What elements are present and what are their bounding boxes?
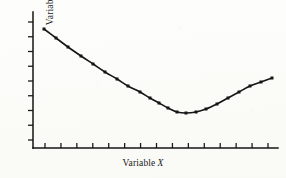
data-point-markers [43,28,274,115]
data-point-marker [185,112,188,115]
data-point-marker [67,46,70,49]
y-axis-label-word: Variable [45,0,55,25]
data-point-marker [116,78,119,81]
data-point-marker [139,91,142,94]
plot-area [0,0,286,178]
data-point-marker [167,107,170,110]
data-point-marker [80,55,83,58]
x-axis-label-word: Variable [123,158,156,168]
data-point-marker [127,85,130,88]
x-axis-label: VariableX [0,158,286,168]
data-point-marker [271,77,274,80]
data-point-marker [249,85,252,88]
data-point-marker [227,97,230,100]
y-axis-label-rotator: VariableY [45,0,55,55]
data-point-marker [149,97,152,100]
data-point-marker [92,63,95,66]
data-point-marker [104,71,107,74]
data-point-marker [205,108,208,111]
data-point-marker [216,103,219,106]
data-point-marker [176,111,179,114]
x-axis-label-letter: X [155,158,163,168]
chart-figure: VariableX VariableY [0,0,286,178]
data-point-marker [158,102,161,105]
data-point-marker [195,111,198,114]
data-point-marker [260,81,263,84]
data-curve [44,29,272,113]
data-point-marker [238,91,241,94]
y-axis-label: VariableY [45,0,55,25]
